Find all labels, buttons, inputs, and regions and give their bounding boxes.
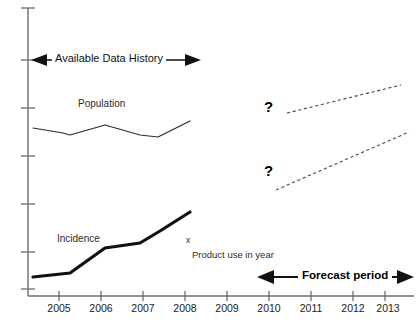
arrow-head-right-icon [397, 270, 414, 284]
x-tick-label-2005: 2005 [37, 303, 81, 314]
uncertainty-question-mark-upper: ? [264, 99, 273, 114]
series-population-forecast-dashed [287, 85, 401, 113]
x-tick-label-2011: 2011 [289, 303, 333, 314]
series-incidence-forecast-dashed [276, 132, 409, 190]
series-label-incidence: Incidence [57, 234, 100, 244]
arrow-head-left-icon [257, 270, 274, 284]
product-use-point-marker: x [186, 236, 190, 245]
uncertainty-question-mark-lower: ? [264, 163, 273, 178]
x-tick-label-2009: 2009 [205, 303, 249, 314]
series-population-line [33, 121, 190, 137]
arrow-head-left-icon [31, 54, 47, 66]
forecast-chart: 2005 2006 2007 2008 2009 2010 2011 2012 … [0, 0, 416, 328]
x-tick-label-2010: 2010 [247, 303, 291, 314]
annotation-forecast-period: Forecast period [298, 270, 392, 282]
arrow-head-right-icon [185, 54, 201, 66]
x-tick-label-2007: 2007 [121, 303, 165, 314]
annotation-product-use-in-year: Product use in year [192, 250, 274, 260]
series-incidence-line [33, 212, 190, 277]
x-tick-label-2008: 2008 [163, 303, 207, 314]
x-tick-label-2013: 2013 [366, 303, 410, 314]
annotation-available-data-history: Available Data History [52, 53, 166, 64]
series-label-population: Population [78, 99, 125, 109]
x-tick-label-2006: 2006 [79, 303, 123, 314]
